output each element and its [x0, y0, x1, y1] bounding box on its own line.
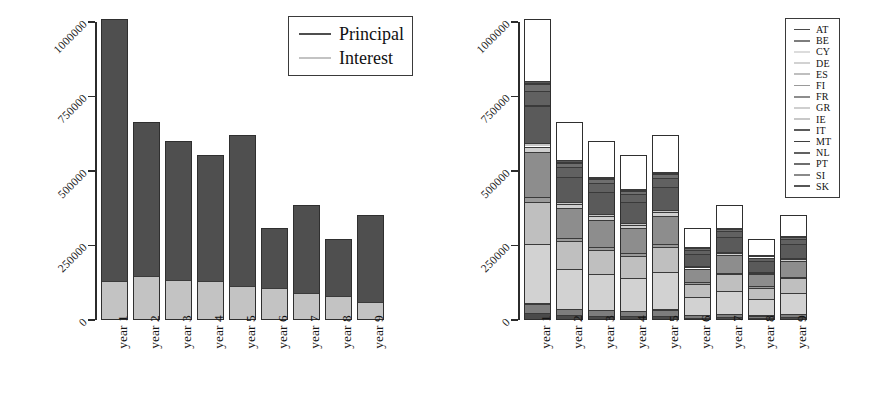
bar-segment — [556, 238, 583, 241]
bar-segment — [652, 247, 679, 273]
bar-segment — [165, 141, 192, 280]
bar-segment — [620, 194, 647, 202]
legend-label: SI — [816, 170, 825, 181]
bar-segment — [556, 177, 583, 202]
y-axis-tick-label: 750000 — [479, 92, 513, 126]
x-axis-tick-label: year 1 — [538, 315, 554, 348]
bar-segment — [652, 210, 679, 212]
x-axis-tick-label: year 2 — [570, 315, 586, 348]
legend-swatch-icon — [299, 57, 331, 59]
bar-segment — [524, 304, 551, 313]
y-axis-tick-label: 1000000 — [474, 18, 512, 56]
bar-segment — [652, 187, 679, 210]
x-axis-tick-label: year 9 — [794, 315, 810, 348]
bar-segment — [588, 310, 615, 311]
legend-row: FR — [792, 91, 831, 102]
bar-segment — [620, 253, 647, 256]
bar-segment — [524, 91, 551, 105]
bar-segment — [524, 83, 551, 84]
legend-row: ES — [792, 69, 831, 80]
y-axis-tick — [511, 319, 518, 321]
bar-segment — [716, 274, 743, 290]
bar-segment — [588, 250, 615, 275]
bar-segment — [524, 147, 551, 153]
legend-label: BE — [816, 35, 829, 46]
legend-label: IE — [816, 114, 826, 125]
y-axis-tick-label: 250000 — [479, 241, 513, 275]
legend-swatch-icon — [794, 185, 810, 187]
y-axis-tick — [88, 96, 95, 98]
bar-segment — [716, 252, 743, 253]
bar-column — [133, 122, 160, 320]
bar-column — [620, 155, 647, 320]
legend-swatch-icon — [794, 96, 810, 98]
bar-segment — [556, 160, 583, 162]
chart-panel-country-breakdown: 02500005000007500001000000year 1year 2ye… — [440, 0, 873, 413]
legend-row: IT — [792, 125, 831, 136]
x-axis-tick-label: year 4 — [634, 315, 650, 348]
y-axis-tick — [511, 21, 518, 23]
x-axis-tick-label: year 3 — [602, 315, 618, 348]
bar-segment — [748, 273, 775, 275]
legend-row: GR — [792, 102, 831, 113]
bar-segment — [133, 276, 160, 320]
chart-panel-principal-interest: 02500005000007500001000000year 1year 2ye… — [0, 0, 440, 413]
x-axis-tick-label: year 7 — [730, 315, 746, 348]
bar-segment — [684, 247, 711, 248]
bar-segment — [652, 272, 679, 309]
legend-label: NL — [816, 147, 830, 158]
bar-segment — [748, 258, 775, 262]
bar-segment — [652, 174, 679, 178]
y-axis-tick — [511, 170, 518, 172]
bar-segment — [652, 212, 679, 216]
bar-segment — [684, 266, 711, 267]
legend-swatch-icon — [794, 40, 810, 42]
bar-segment — [524, 244, 551, 304]
legend-swatch-icon — [794, 163, 810, 165]
legend-principal-interest: PrincipalInterest — [288, 16, 413, 76]
bar-segment — [620, 191, 647, 195]
y-axis-tick — [88, 170, 95, 172]
bar-column — [293, 205, 320, 320]
bar-segment — [556, 269, 583, 309]
bar-segment — [748, 288, 775, 299]
bar-segment — [716, 253, 743, 255]
bar-segment — [780, 236, 807, 237]
x-axis-tick-label: year 3 — [179, 315, 195, 348]
bar-segment — [524, 81, 551, 83]
x-axis-tick-label: year 5 — [243, 315, 259, 348]
legend-row: IE — [792, 114, 831, 125]
x-axis-tick-label: year 7 — [307, 315, 323, 348]
bar-segment — [780, 259, 807, 261]
bar-segment — [620, 189, 647, 190]
legend-swatch-icon — [794, 129, 810, 131]
bar-segment — [780, 261, 807, 277]
bar-segment — [748, 286, 775, 287]
legend-swatch-icon — [794, 118, 810, 120]
bar-segment — [620, 225, 647, 228]
bar-segment — [524, 143, 551, 147]
bar-segment — [556, 208, 583, 238]
y-axis-tick-label: 500000 — [56, 167, 90, 201]
bar-segment — [716, 237, 743, 238]
bar-segment — [325, 239, 352, 296]
x-axis-tick-label: year 6 — [275, 315, 291, 348]
legend-label: Principal — [339, 24, 404, 45]
bar-segment — [684, 254, 711, 265]
legend-row: PT — [792, 158, 831, 169]
y-axis-tick — [88, 319, 95, 321]
legend-label: MT — [816, 136, 831, 147]
y-axis-tick — [88, 245, 95, 247]
bar-segment — [524, 106, 551, 143]
bar-segment — [716, 255, 743, 272]
legend-label: DE — [816, 58, 830, 69]
bar-segment — [716, 237, 743, 251]
bar-segment — [620, 202, 647, 203]
bar-segment — [780, 244, 807, 257]
bar-segment — [101, 281, 128, 320]
bar-segment — [684, 254, 711, 255]
bar-segment — [524, 202, 551, 244]
bar-segment — [556, 309, 583, 315]
bar-segment — [684, 269, 711, 283]
bar-segment — [165, 280, 192, 320]
